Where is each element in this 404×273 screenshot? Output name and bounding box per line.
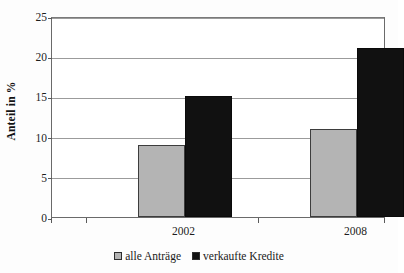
y-tickmark-25 [48,18,52,19]
black-square-icon [192,252,200,260]
bar-2008-series-1 [357,48,404,217]
y-tickmark-10 [48,138,52,139]
chart-legend: alle Anträgeverkaufte Kredite [0,250,398,262]
x-tick-label-2002: 2002 [172,225,195,237]
y-tick-label-5: 5 [22,172,47,184]
bar-2002-series-0 [138,145,185,217]
y-tickmark-20 [48,58,52,59]
gridline-y-20 [52,58,384,59]
y-tick-label-10: 10 [22,132,47,144]
x-tickmark-edge-1 [384,218,385,223]
y-axis-title-container: Anteil in % [0,0,22,222]
gridline-y-25 [52,18,384,19]
legend-item-1[interactable]: verkaufte Kredite [192,250,284,262]
plot-area [51,17,385,218]
bar-2002-series-1 [185,96,232,217]
y-tick-label-0: 0 [22,212,47,224]
x-tick-label-2008: 2008 [344,225,367,237]
y-tick-label-25: 25 [22,11,47,23]
y-tick-label-15: 15 [22,91,47,103]
bar-2008-series-0 [310,129,357,217]
y-axis-tick-labels: 0510152025 [22,11,47,225]
y-tickmark-5 [48,178,52,179]
legend-label-1: verkaufte Kredite [203,250,284,262]
y-tick-label-20: 20 [22,51,47,63]
y-tickmark-15 [48,98,52,99]
plot-inner [52,18,384,217]
legend-label-0: alle Anträge [125,250,181,262]
x-tickmark-0 [86,218,87,223]
x-tickmark-1 [258,218,259,223]
legend-item-0[interactable]: alle Anträge [114,250,181,262]
gray-square-icon [114,252,122,260]
x-axis-tickmarks [51,218,385,224]
x-axis-tick-labels: 20022008 [51,225,385,245]
x-tickmark-edge-0 [51,218,52,223]
y-axis-title: Anteil in % [5,81,17,140]
